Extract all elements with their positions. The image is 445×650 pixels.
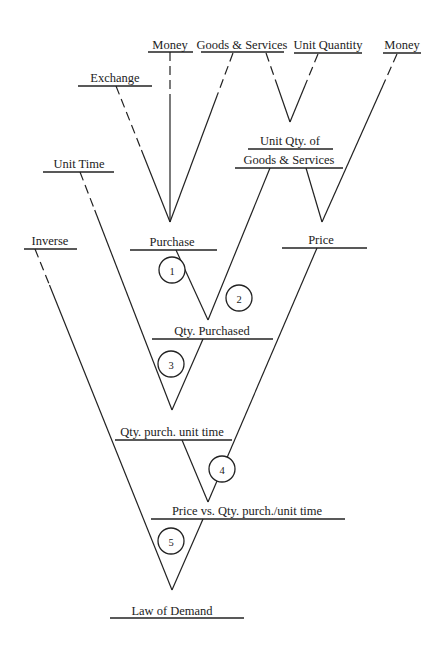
label-law-of-demand: Law of Demand bbox=[131, 604, 212, 618]
label-money-right: Money bbox=[384, 38, 419, 52]
edge-qty-purch-unit-time bbox=[182, 440, 208, 502]
step-number-4: 4 bbox=[219, 465, 224, 476]
step-number-5: 5 bbox=[168, 537, 173, 548]
label-unit-time: Unit Time bbox=[53, 157, 104, 171]
edge-exchange bbox=[141, 150, 170, 222]
edge-goods-services-mid bbox=[306, 168, 322, 222]
label-goods-services-mid: Goods & Services bbox=[244, 153, 335, 167]
label-price: Price bbox=[308, 233, 334, 247]
edge-unit-time-dashed bbox=[80, 172, 95, 210]
edge-goods-services-top-dashed bbox=[266, 53, 275, 80]
edge-money-right-dashed bbox=[383, 54, 397, 85]
step-number-1: 1 bbox=[169, 266, 174, 277]
edge-goods-services-top bbox=[275, 80, 290, 122]
step-number-3: 3 bbox=[168, 360, 173, 371]
step-number-2: 2 bbox=[236, 294, 241, 305]
edge-exchange-dashed bbox=[116, 86, 141, 150]
edge-inverse-dashed bbox=[35, 249, 49, 285]
edge-goods-services-top bbox=[170, 95, 217, 222]
label-purchase: Purchase bbox=[149, 235, 194, 249]
label-qty-purch-unit-time: Qty. purch. unit time bbox=[120, 425, 224, 439]
edge-goods-services-top-dashed bbox=[217, 53, 233, 95]
label-goods-services-top: Goods & Services bbox=[197, 38, 288, 52]
label-inverse: Inverse bbox=[32, 234, 69, 248]
label-exchange: Exchange bbox=[90, 71, 139, 85]
label-qty-purchased: Qty. Purchased bbox=[174, 324, 250, 338]
edge-unit-quantity bbox=[290, 85, 305, 122]
label-unit-qty-of: Unit Qty. of bbox=[260, 134, 320, 148]
edge-unit-quantity-dashed bbox=[305, 54, 318, 85]
label-unit-quantity: Unit Quantity bbox=[293, 38, 362, 52]
label-price-vs-qty: Price vs. Qty. purch./unit time bbox=[172, 504, 322, 518]
label-money-left: Money bbox=[152, 38, 187, 52]
